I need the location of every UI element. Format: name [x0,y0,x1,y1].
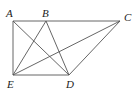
label-d: D [65,78,74,90]
label-b: B [42,7,49,19]
geometry-diagram: A B C E D [0,0,138,93]
label-c: C [124,11,132,23]
label-e: E [6,78,14,90]
segment-dc [69,21,120,75]
segments [13,21,120,75]
label-a: A [5,7,13,19]
labels: A B C E D [5,7,132,90]
